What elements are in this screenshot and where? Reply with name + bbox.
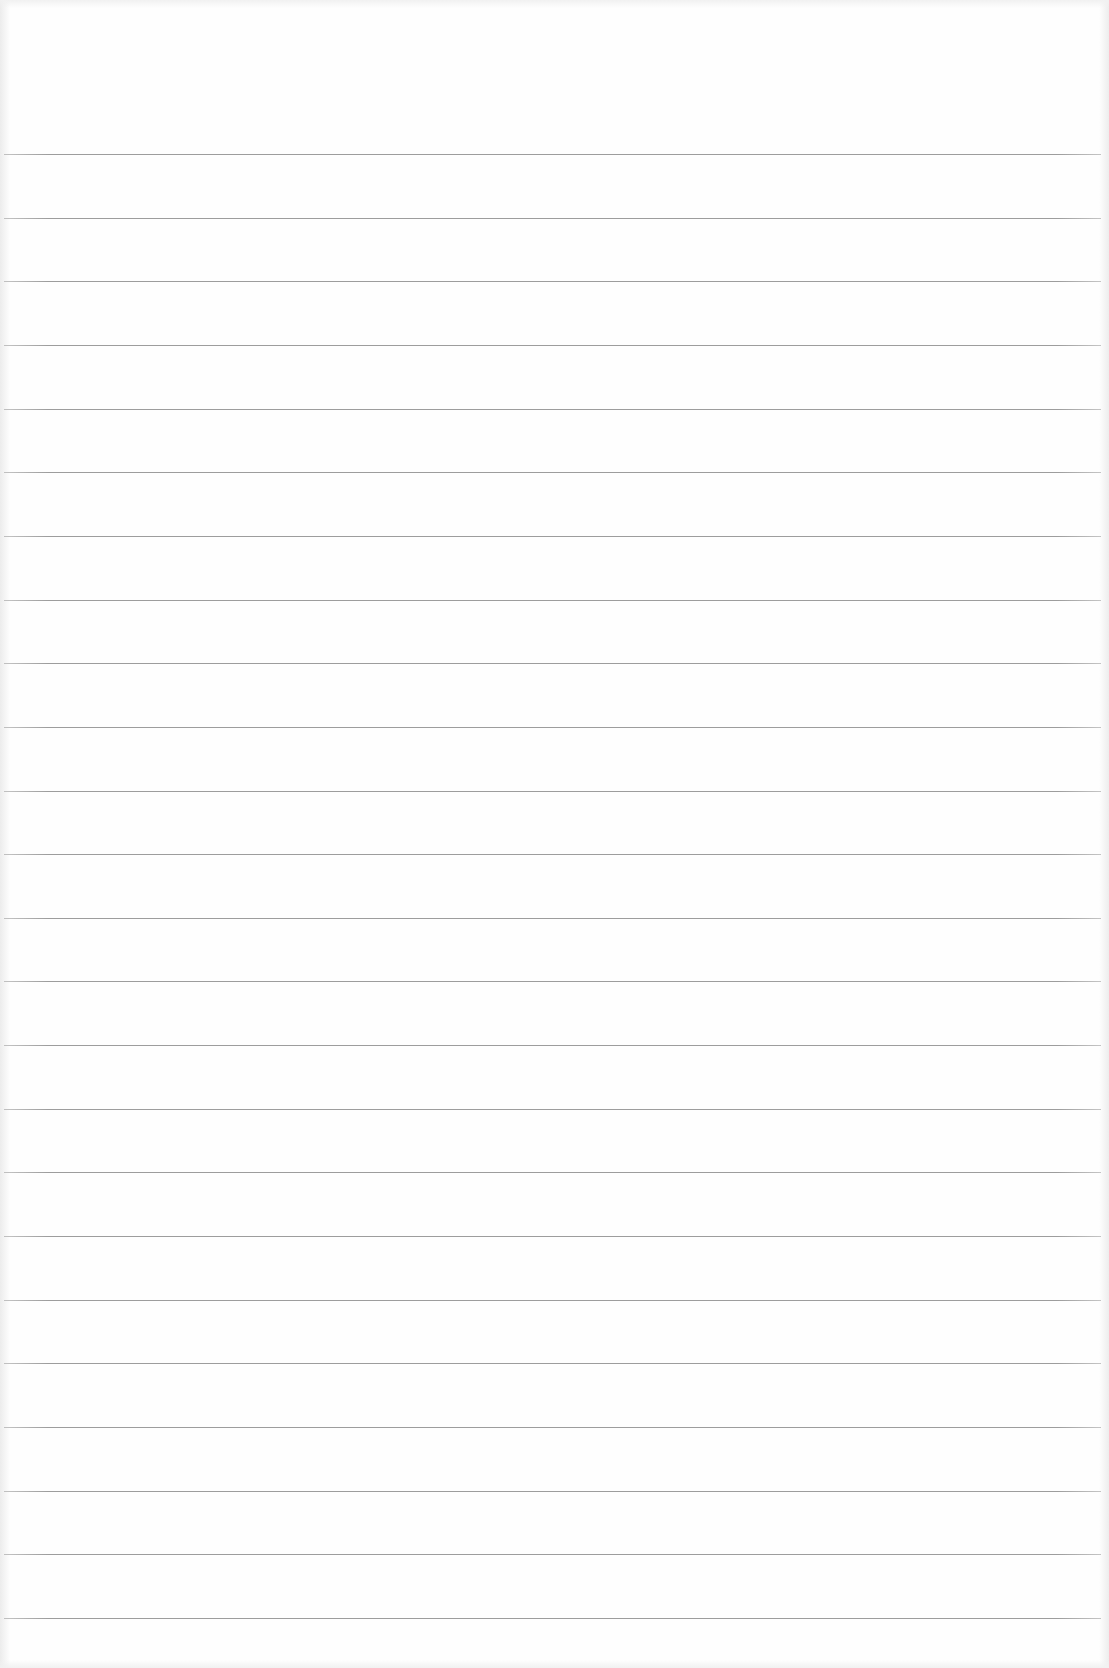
ruled-line <box>4 1363 1101 1364</box>
ruled-lines <box>0 0 1109 1668</box>
ruled-line <box>4 791 1101 792</box>
lined-paper-page <box>0 0 1109 1668</box>
ruled-line <box>4 281 1101 282</box>
ruled-line <box>4 536 1101 537</box>
ruled-line <box>4 727 1101 728</box>
ruled-line <box>4 663 1101 664</box>
ruled-line <box>4 1045 1101 1046</box>
ruled-line <box>4 981 1101 982</box>
ruled-line <box>4 1109 1101 1110</box>
ruled-line <box>4 345 1101 346</box>
ruled-line <box>4 854 1101 855</box>
ruled-line <box>4 1427 1101 1428</box>
ruled-line <box>4 1172 1101 1173</box>
ruled-line <box>4 1300 1101 1301</box>
ruled-line <box>4 409 1101 410</box>
ruled-line <box>4 472 1101 473</box>
ruled-line <box>4 1491 1101 1492</box>
ruled-line <box>4 154 1101 155</box>
ruled-line <box>4 1554 1101 1555</box>
ruled-line <box>4 1236 1101 1237</box>
ruled-line <box>4 218 1101 219</box>
ruled-line <box>4 918 1101 919</box>
ruled-line <box>4 1618 1101 1619</box>
ruled-line <box>4 600 1101 601</box>
